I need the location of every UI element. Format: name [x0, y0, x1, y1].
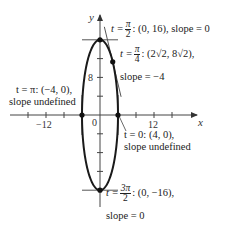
annotation-t-pi-slope: slope undefined	[9, 96, 76, 107]
tangent-lines	[82, 27, 121, 190]
coordinate-text: : (2√2, 8√2),	[141, 48, 194, 59]
annotation-t-3pi-over-2-slope: slope = 0	[106, 210, 145, 221]
origin-label: 0	[92, 117, 97, 128]
fraction-denominator: 2	[120, 194, 132, 203]
y-tick-label-8: 8	[88, 72, 93, 83]
curve-point	[110, 59, 115, 64]
fraction: π2	[125, 20, 132, 39]
curve-point	[79, 112, 84, 117]
annotation-t-0: t = 0: (4, 0),	[124, 129, 174, 140]
annotation-t-0-slope: slope undefined	[124, 141, 191, 152]
t-equals-text: t = π: (−4, 0),	[16, 84, 72, 95]
t-equals: t =	[120, 48, 133, 59]
annotation-t-pi-over-2: t =π2: (0, 16), slope = 0	[111, 20, 210, 39]
fraction: π4	[134, 45, 141, 64]
coordinate-text: : (0, −16),	[132, 187, 174, 198]
annotation-t-3pi-over-2: t =3π2: (0, −16),	[106, 184, 174, 203]
fraction-denominator: 4	[134, 55, 141, 64]
y-axis-label: y	[88, 11, 94, 23]
curve-point	[97, 37, 102, 42]
annotation-t-pi-over-4: t =π4: (2√2, 8√2),	[120, 45, 194, 64]
x-axis-label: x	[197, 116, 203, 128]
fraction-denominator: 2	[125, 30, 132, 39]
x-tick-label-neg12: −12	[36, 119, 52, 130]
coordinate-text: : (0, 16), slope = 0	[132, 23, 209, 34]
annotation-t-pi-over-4-slope: slope = −4	[120, 71, 165, 82]
curve-point	[115, 112, 120, 117]
fraction: 3π2	[120, 184, 132, 203]
annotation-t-pi: t = π: (−4, 0),	[16, 84, 72, 95]
axes	[10, 15, 197, 207]
t-equals-text: t = 0: (4, 0),	[124, 129, 174, 140]
curve-point	[97, 188, 102, 193]
t-equals: t =	[106, 187, 119, 198]
t-equals: t =	[111, 23, 124, 34]
